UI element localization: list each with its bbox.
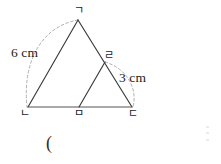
answer-open-paren: (	[46, 133, 52, 154]
vertex-label-bottom-mid: ㅁ	[74, 108, 84, 119]
length-label-right: 3 cm	[119, 70, 146, 86]
vertex-label-bottom-right: ㄷ	[128, 108, 138, 119]
segment-ga-na	[28, 20, 78, 107]
segment-ma-ra	[79, 62, 105, 107]
vertex-label-bottom-left: ㄴ	[20, 108, 30, 119]
faint-edge-artifact	[206, 126, 209, 146]
length-label-left: 6 cm	[11, 45, 38, 61]
geometry-canvas	[0, 0, 221, 164]
geometry-figure: 6 cm 3 cm ㄱ ㄴ ㅁ ㄷ ㄹ (	[0, 0, 221, 164]
vertex-label-mid-right: ㄹ	[104, 50, 114, 61]
vertex-label-apex: ㄱ	[74, 5, 84, 16]
